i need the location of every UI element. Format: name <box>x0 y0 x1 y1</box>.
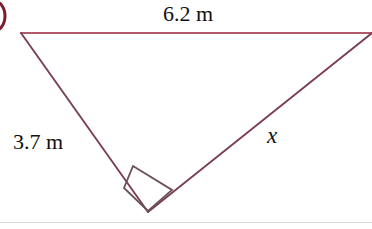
question-number-circle-icon <box>0 1 5 31</box>
right-triangle-figure: 6.2 m 3.7 m x <box>0 0 372 229</box>
triangle-drawing <box>0 0 372 229</box>
label-top-side-length: 6.2 m <box>163 3 213 25</box>
label-left-leg-length: 3.7 m <box>13 131 63 153</box>
label-unknown-side-x: x <box>267 124 277 147</box>
triangle-left-leg <box>21 33 148 212</box>
triangle-right-leg <box>148 33 372 212</box>
